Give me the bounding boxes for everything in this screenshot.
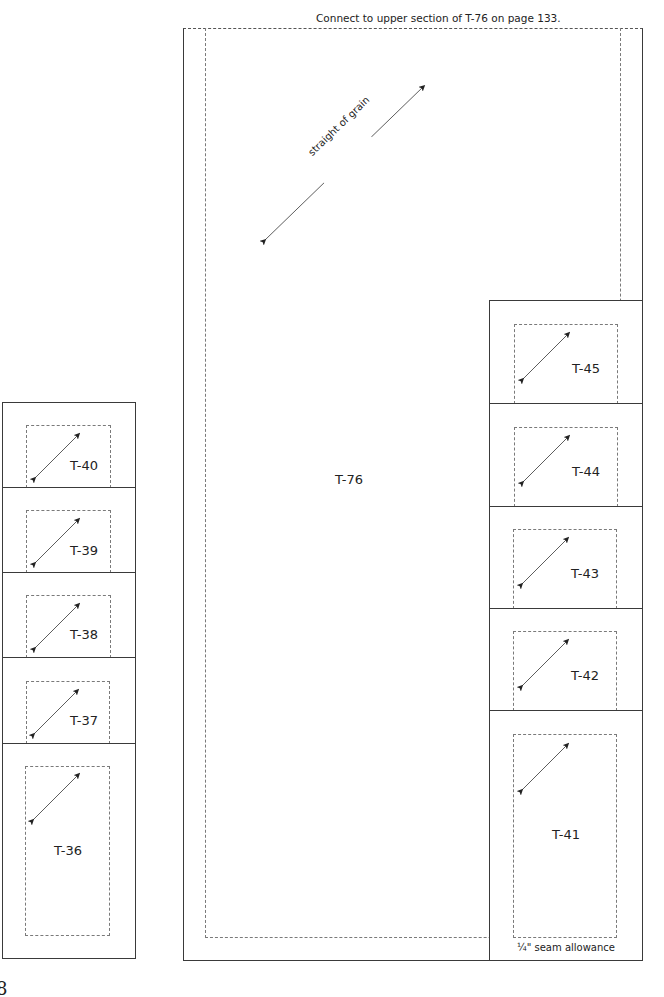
grain-arrow-icon: [33, 432, 81, 480]
piece-label-t36: T-36: [54, 843, 82, 858]
grain-arrow-icon: [32, 688, 80, 736]
grain-arrow-icon: [520, 536, 570, 586]
piece-label-t76: T-76: [335, 472, 363, 487]
grain-arrow-icon: [31, 772, 81, 822]
piece-label-t43: T-43: [571, 566, 599, 581]
connect-note: Connect to upper section of T-76 on page…: [316, 12, 561, 24]
grain-arrow-icon: [521, 434, 571, 484]
grain-arrow-icon: [520, 638, 570, 688]
grain-arrow-icon: [33, 602, 81, 650]
piece-label-t42: T-42: [571, 668, 599, 683]
grain-arrow-icon: [521, 331, 571, 381]
page-number: 8: [0, 978, 7, 997]
piece-label-t44: T-44: [572, 464, 600, 479]
grain-arrow-icon: [520, 742, 570, 792]
seam-allowance-note: ¼" seam allowance: [517, 942, 615, 953]
piece-label-t41: T-41: [552, 827, 580, 842]
grain-arrow-icon: [33, 517, 81, 565]
grain-arrow-icon: [262, 83, 427, 243]
piece-label-t45: T-45: [572, 361, 600, 376]
